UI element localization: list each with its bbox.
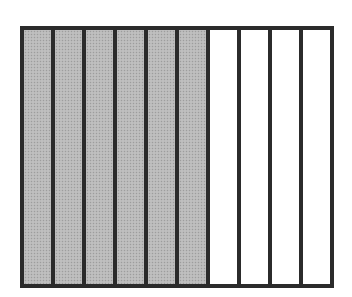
fraction-rectangle [20,26,334,288]
shaded-part [144,30,175,284]
shaded-part [113,30,144,284]
unshaded-part [299,30,330,284]
unshaded-part [268,30,299,284]
unshaded-part [237,30,268,284]
shaded-part [24,30,51,284]
shaded-part [175,30,206,284]
shaded-part [51,30,82,284]
shaded-part [82,30,113,284]
unshaded-part [206,30,237,284]
